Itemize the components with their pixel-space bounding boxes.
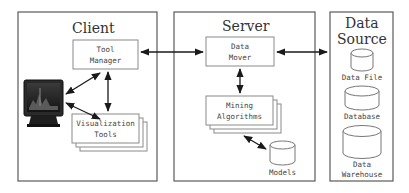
database-label: Database xyxy=(344,112,381,121)
mining-algorithms-label-line2: Algorithms xyxy=(217,112,262,121)
architecture-diagram: Client Server Data Source Tool Manager V… xyxy=(0,0,409,193)
tool-manager-box: Tool Manager xyxy=(73,40,138,69)
visualization-tools-label-line1: Visualization xyxy=(76,119,135,128)
visualization-tools-stack: Visualization Tools xyxy=(72,114,147,151)
data-warehouse-label-line1: Data xyxy=(353,160,371,169)
data-source-title-line2: Source xyxy=(337,31,387,47)
data-warehouse-cylinder: Data Warehouse xyxy=(342,126,383,180)
data-warehouse-label-line2: Warehouse xyxy=(342,170,383,179)
tool-manager-label-line2: Manager xyxy=(90,56,122,65)
visualization-tools-label-line2: Tools xyxy=(94,130,117,139)
models-label: Models xyxy=(269,168,296,177)
mining-algorithms-stack: Mining Algorithms xyxy=(206,96,281,133)
client-title: Client xyxy=(72,20,115,36)
data-mover-box: Data Mover xyxy=(206,37,274,66)
tool-manager-label-line1: Tool xyxy=(96,45,114,54)
models-cylinder: Models xyxy=(269,141,296,177)
data-mover-label-line1: Data xyxy=(231,42,249,51)
data-file-label: Data File xyxy=(342,73,383,82)
mining-algorithms-label-line1: Mining xyxy=(226,101,253,110)
server-title: Server xyxy=(222,18,270,34)
database-cylinder: Database xyxy=(344,86,381,121)
data-mover-label-line2: Mover xyxy=(229,53,252,62)
data-source-title-line1: Data xyxy=(345,15,379,31)
